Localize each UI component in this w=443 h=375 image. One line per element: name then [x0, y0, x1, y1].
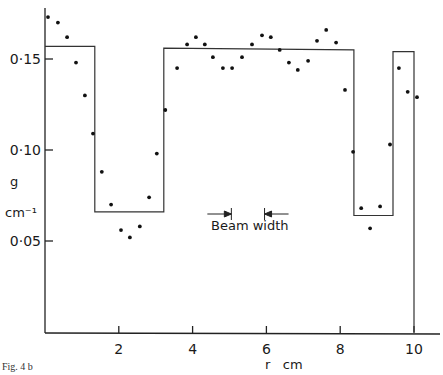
data-point	[315, 39, 319, 43]
data-point	[128, 236, 132, 240]
data-point	[147, 195, 151, 199]
x-ticks: 246810	[114, 326, 423, 357]
data-point	[74, 61, 78, 65]
data-point	[155, 152, 159, 156]
data-point	[306, 59, 310, 63]
y-axis-unit: cm⁻¹	[5, 205, 37, 220]
data-point	[109, 203, 113, 207]
y-tick-label: 0·05	[10, 233, 41, 249]
data-point	[221, 66, 225, 70]
data-point	[406, 90, 410, 94]
data-point	[163, 108, 167, 112]
data-point	[83, 94, 87, 98]
data-point	[65, 35, 69, 39]
data-point	[185, 43, 189, 47]
data-point	[296, 68, 300, 72]
arrowhead-icon	[224, 211, 231, 217]
data-point	[287, 61, 291, 65]
arrowhead-icon	[265, 211, 272, 217]
figure-caption: Fig. 4 b	[2, 361, 33, 372]
data-point	[194, 35, 198, 39]
x-axis-label: r cm	[265, 357, 303, 372]
data-point	[368, 226, 372, 230]
data-point	[230, 66, 234, 70]
data-point	[175, 66, 179, 70]
data-point	[415, 95, 419, 99]
data-point	[91, 132, 95, 136]
data-point	[100, 170, 104, 174]
y-axis-label: g	[10, 174, 18, 189]
data-point	[211, 55, 215, 59]
x-tick-label: 6	[262, 341, 271, 357]
data-point	[278, 48, 282, 52]
data-point	[334, 41, 338, 45]
data-point	[138, 225, 142, 229]
data-point	[343, 88, 347, 92]
x-axis	[45, 333, 440, 334]
data-point	[260, 33, 264, 37]
x-tick-label: 2	[114, 341, 123, 357]
x-tick-label: 8	[336, 341, 345, 357]
data-point	[388, 143, 392, 147]
data-point	[46, 15, 50, 19]
step-model-line	[45, 46, 414, 332]
data-point	[351, 150, 355, 154]
data-point	[250, 43, 254, 47]
chart: 246810 0·050·100·15 g cm⁻¹ r cm Beam wid…	[0, 0, 443, 375]
data-point	[269, 35, 273, 39]
data-point	[240, 55, 244, 59]
y-tick-label: 0·10	[10, 142, 41, 158]
data-point	[359, 206, 363, 210]
x-tick-label: 10	[405, 341, 423, 357]
data-point	[397, 66, 401, 70]
y-tick-label: 0·15	[10, 51, 41, 67]
data-point	[324, 28, 328, 32]
data-point	[119, 228, 123, 232]
data-point	[203, 43, 207, 47]
data-point	[378, 205, 382, 209]
data-point	[56, 21, 60, 25]
x-tick-label: 4	[188, 341, 197, 357]
beam-width-label: Beam width	[211, 218, 289, 233]
